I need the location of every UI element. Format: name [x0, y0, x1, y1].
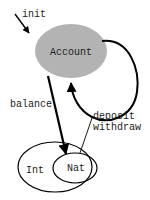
- int-label: Int: [26, 165, 44, 176]
- account-label: Account: [50, 47, 92, 58]
- balance-label: balance: [10, 99, 52, 110]
- withdraw-label: withdraw: [93, 122, 141, 133]
- account-node: Account: [35, 24, 107, 78]
- loop-to-nat-line: [80, 118, 92, 153]
- diagram-canvas: init Account deposit withdraw balance In…: [0, 0, 150, 200]
- nat-node: Nat: [53, 153, 97, 183]
- init-label: init: [22, 9, 46, 20]
- init-edge: init: [15, 9, 46, 33]
- deposit-label: deposit: [93, 111, 135, 122]
- nat-label: Nat: [67, 163, 85, 174]
